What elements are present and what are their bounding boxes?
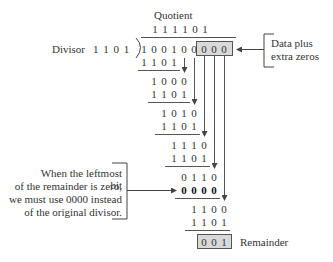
diagram-lines — [0, 0, 333, 262]
callout-bracket-icon — [264, 34, 274, 67]
callout-bracket-icon — [112, 163, 127, 219]
division-bracket-icon — [136, 38, 141, 58]
